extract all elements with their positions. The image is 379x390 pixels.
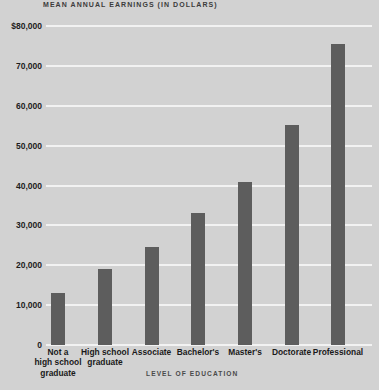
x-axis-tick-label: High school graduate (75, 347, 135, 368)
y-axis-tick-label: 10,000 (0, 300, 42, 310)
chart-title: MEAN ANNUAL EARNINGS (IN DOLLARS) (43, 1, 218, 8)
bar (191, 213, 205, 345)
bars-group (46, 26, 372, 345)
x-axis-tick-label: Associate (128, 347, 176, 357)
x-axis-tick-label: Bachelor's (174, 347, 222, 357)
plot-area (46, 26, 372, 345)
bar (145, 247, 159, 345)
bar (51, 293, 65, 345)
x-axis-tick-label: Master's (221, 347, 269, 357)
bar (285, 125, 299, 346)
bar (98, 269, 112, 345)
y-axis-tick-label: $80,000 (0, 21, 42, 31)
y-axis-tick-label: 30,000 (0, 220, 42, 230)
y-axis-tick-label: 60,000 (0, 101, 42, 111)
x-axis-title: LEVEL OF EDUCATION (146, 370, 238, 377)
bar-chart: MEAN ANNUAL EARNINGS (IN DOLLARS) 010,00… (0, 0, 379, 390)
y-axis-tick-label: 50,000 (0, 141, 42, 151)
bar (238, 182, 252, 345)
y-axis-tick-label: 70,000 (0, 61, 42, 71)
x-axis-labels: Not a high school graduateHigh school gr… (46, 347, 379, 387)
x-axis-tick-label: Professional (307, 347, 369, 357)
y-axis-tick-label: 40,000 (0, 181, 42, 191)
y-axis-tick-label: 20,000 (0, 260, 42, 270)
bar (331, 44, 345, 345)
